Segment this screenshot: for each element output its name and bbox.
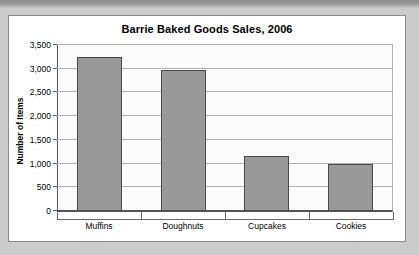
bar-doughnuts[interactable]: [161, 70, 206, 211]
x-axis-label-muffins: Muffins: [57, 221, 141, 231]
y-tick-mark: [53, 139, 57, 140]
y-axis-title-label: Number of Items: [15, 97, 25, 164]
y-tick-mark: [53, 210, 57, 211]
x-tick-mark: [309, 212, 310, 220]
y-tick-mark: [53, 44, 57, 45]
page-caption-strip: Created Bar Chart for Barrie Baked Goods…: [0, 0, 419, 9]
bar-series: [58, 45, 392, 211]
bar-cupcakes[interactable]: [244, 156, 289, 211]
y-tick-mark: [53, 68, 57, 69]
x-axis-labels: MuffinsDoughnutsCupcakesCookies: [57, 221, 393, 231]
x-axis-label-doughnuts: Doughnuts: [141, 221, 225, 231]
y-tick-label: 3,500: [30, 40, 51, 50]
bar-slot: [142, 45, 226, 211]
y-axis-title: Number of Items: [13, 86, 27, 176]
y-tick-mark: [53, 91, 57, 92]
x-tick-mark: [393, 212, 394, 220]
y-tick-label: 3,000: [30, 64, 51, 74]
bar-slot: [58, 45, 142, 211]
y-tick-label: 0: [46, 206, 51, 216]
y-tick-label: 2,000: [30, 111, 51, 121]
x-axis-label-cookies: Cookies: [309, 221, 393, 231]
bar-slot: [225, 45, 309, 211]
y-tick-label: 2,500: [30, 87, 51, 97]
y-tick-mark: [53, 186, 57, 187]
x-tick-mark: [141, 212, 142, 220]
y-tick-label: 500: [37, 182, 51, 192]
bar-cookies[interactable]: [328, 164, 373, 211]
bar-slot: [309, 45, 393, 211]
plot-wrap: 3,5003,0002,5002,0001,5001,0005000: [57, 44, 393, 212]
y-tick-label: 1,500: [30, 135, 51, 145]
y-tick-mark: [53, 163, 57, 164]
x-axis-label-cupcakes: Cupcakes: [225, 221, 309, 231]
x-tick-mark: [57, 212, 58, 220]
chart-title: Barrie Baked Goods Sales, 2006: [9, 23, 405, 35]
y-tick-mark: [53, 115, 57, 116]
page-caption-text: Created Bar Chart for Barrie Baked Goods…: [2, 0, 236, 2]
chart-panel: Barrie Baked Goods Sales, 2006 Number of…: [8, 15, 406, 242]
bar-muffins[interactable]: [77, 57, 122, 211]
y-tick-label: 1,000: [30, 159, 51, 169]
x-tick-mark: [225, 212, 226, 220]
